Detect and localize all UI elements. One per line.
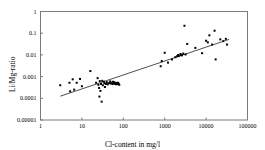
data-point-marker — [226, 44, 228, 46]
data-point-marker — [108, 82, 110, 84]
data-point-marker — [167, 62, 169, 64]
data-point-marker — [174, 56, 176, 58]
data-point-marker — [211, 44, 213, 46]
y-axis-title: Li/Mg-ratio — [9, 57, 17, 92]
data-point-marker — [178, 55, 180, 57]
data-point-marker — [79, 78, 81, 80]
y-tick-label: 0.001 — [0, 74, 37, 80]
x-tick-label: 10 — [79, 123, 85, 129]
data-point-marker — [98, 87, 100, 89]
data-point-marker — [186, 43, 188, 45]
data-point-marker — [104, 86, 106, 88]
data-point-marker — [185, 53, 187, 55]
data-point-marker — [68, 82, 70, 84]
data-point-marker — [106, 81, 108, 83]
data-point-marker — [69, 90, 71, 92]
x-tick-label: 10000 — [199, 123, 214, 129]
data-point-marker — [182, 53, 184, 55]
data-point-marker — [181, 54, 183, 56]
data-point-marker — [95, 82, 97, 84]
data-point-marker — [81, 85, 83, 87]
data-point-marker — [98, 96, 100, 98]
plot-frame — [41, 12, 248, 121]
x-tick-label: 100 — [119, 123, 128, 129]
data-point-marker — [100, 83, 102, 85]
data-point-marker — [59, 84, 61, 86]
data-point-marker — [160, 65, 162, 67]
y-tick-label: 1 — [0, 9, 37, 15]
data-point-marker — [214, 30, 216, 32]
x-tick-label: 1 — [39, 123, 42, 129]
data-point-marker — [215, 58, 217, 60]
data-point-marker — [118, 84, 120, 86]
x-axis-title: Cl-content in mg/l — [0, 140, 265, 149]
data-point-marker — [201, 52, 203, 54]
x-tick-label: 100000 — [239, 123, 257, 129]
data-point-marker — [225, 38, 227, 40]
data-point-marker — [76, 82, 78, 84]
data-point-marker — [205, 40, 207, 42]
data-point-marker — [101, 101, 103, 103]
data-point-marker — [171, 58, 173, 60]
x-tick-label: 1000 — [159, 123, 171, 129]
y-tick-label: 0.0001 — [0, 95, 37, 101]
chart-container: 1101001000100001000000.000010.00010.0010… — [0, 0, 265, 150]
data-point-marker — [208, 34, 210, 36]
data-point-marker — [99, 80, 101, 82]
data-point-marker — [72, 78, 74, 80]
data-point-marker — [97, 77, 99, 79]
data-point-marker — [219, 38, 221, 40]
data-point-marker — [89, 70, 91, 72]
data-point-marker — [102, 84, 104, 86]
data-point-marker — [183, 25, 185, 27]
y-tick-label: 0.1 — [0, 30, 37, 36]
data-point-marker — [194, 47, 196, 49]
data-point-marker — [207, 41, 209, 43]
data-point-marker — [164, 52, 166, 54]
data-point-marker — [73, 89, 75, 91]
y-tick-label: 0.00001 — [0, 117, 37, 123]
data-point-marker — [97, 84, 99, 86]
data-point-marker — [222, 40, 224, 42]
data-point-marker — [161, 60, 163, 62]
data-point-marker — [99, 90, 101, 92]
y-tick-label: 0.01 — [0, 52, 37, 58]
